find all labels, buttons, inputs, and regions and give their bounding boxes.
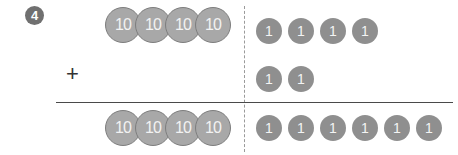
one-coin: 1: [352, 115, 378, 141]
one-coin: 1: [320, 18, 346, 44]
place-value-divider: [244, 6, 245, 152]
row1-ones: 1 1 1 1: [256, 18, 378, 44]
one-coin: 1: [256, 18, 282, 44]
one-coin: 1: [288, 18, 314, 44]
one-coin: 1: [256, 66, 282, 92]
sum-tens: 10 10 10 10: [105, 110, 231, 146]
addition-diagram: 4 + 10 10 10 10 1 1 1 1 1 1 10 10 10 10 …: [0, 0, 458, 155]
plus-sign: +: [66, 63, 79, 85]
one-coin: 1: [352, 18, 378, 44]
one-coin: 1: [288, 66, 314, 92]
one-coin: 1: [256, 115, 282, 141]
one-coin: 1: [320, 115, 346, 141]
row2-ones: 1 1: [256, 66, 314, 92]
problem-number-badge: 4: [25, 6, 44, 25]
sum-ones: 1 1 1 1 1 1: [256, 115, 442, 141]
ten-coin: 10: [195, 7, 231, 43]
ten-coin: 10: [195, 110, 231, 146]
one-coin: 1: [288, 115, 314, 141]
one-coin: 1: [384, 115, 410, 141]
one-coin: 1: [416, 115, 442, 141]
sum-line: [56, 102, 453, 103]
row1-tens: 10 10 10 10: [105, 7, 231, 43]
